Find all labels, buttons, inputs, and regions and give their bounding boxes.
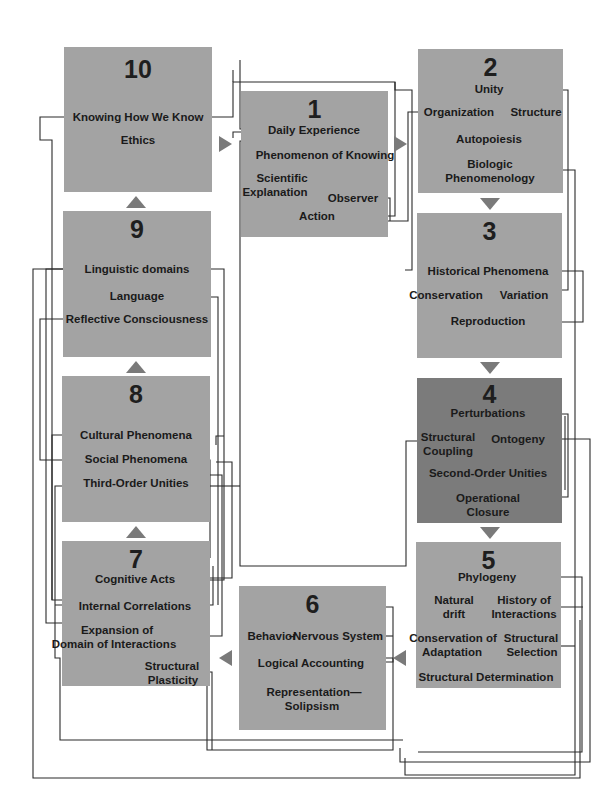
concept-organization: Organization — [424, 106, 494, 119]
concept-ontogeny: Ontogeny — [491, 433, 545, 446]
concept-language: Language — [110, 290, 164, 303]
concept-ethics: Ethics — [121, 134, 156, 147]
concept-structural-determination: Structural Determination — [419, 671, 554, 684]
arrow-down-4-to-5 — [480, 527, 500, 539]
concept-structure: Structure — [510, 106, 561, 119]
concept-perturbations: Perturbations — [451, 407, 526, 420]
concept-structural-plasticity-1: Structural — [145, 660, 199, 673]
arrow-down-2-to-3 — [480, 198, 500, 210]
box-2-number: 2 — [418, 53, 563, 82]
concept-phenomenon-of-knowing: Phenomenon of Knowing — [256, 149, 395, 162]
box-4-number: 4 — [417, 380, 562, 409]
concept-coupling: Coupling — [423, 445, 473, 458]
arrow-up-8-to-9 — [126, 361, 146, 373]
concept-explanation: Explanation — [242, 186, 307, 199]
concept-internal-correlations: Internal Correlations — [79, 600, 191, 613]
arrow-up-9-to-10 — [126, 196, 146, 208]
concept-linguistic-domains: Linguistic domains — [85, 263, 190, 276]
concept-conservation-of: Conservation of — [409, 632, 497, 645]
concept-expansion-of: Expansion of — [81, 624, 153, 637]
concept-structural: Structural — [421, 431, 475, 444]
concept-variation: Variation — [500, 289, 549, 302]
box-9: 9 — [63, 211, 211, 357]
arrow-right-10-to-1 — [219, 136, 232, 152]
box-6-number: 6 — [239, 590, 386, 619]
arrow-left-5-to-6 — [393, 650, 406, 666]
concept-reflective-consciousness: Reflective Consciousness — [66, 313, 209, 326]
concept-daily-experience: Daily Experience — [268, 124, 360, 137]
arrow-right-1-to-2 — [394, 136, 407, 152]
concept-drift: drift — [443, 608, 465, 621]
concept-historical-phenomena: Historical Phenomena — [428, 265, 549, 278]
concept-second-order-unities: Second-Order Unities — [429, 467, 547, 480]
concept-reproduction: Reproduction — [451, 315, 526, 328]
box-1-number: 1 — [241, 95, 388, 124]
concept-operational: Operational — [456, 492, 520, 505]
concept-logical-accounting: Logical Accounting — [258, 657, 364, 670]
box-3: 3 — [417, 213, 562, 358]
box-3-number: 3 — [417, 217, 562, 246]
concept-nervous-system: Nervous System — [293, 630, 383, 643]
box-8-number: 8 — [62, 380, 210, 409]
concept-phenomenology: Phenomenology — [445, 172, 534, 185]
concept-knowing-how-we-know: Knowing How We Know — [73, 111, 204, 124]
concept-representation: Representation— — [266, 686, 361, 699]
arrow-left-6-to-7 — [219, 650, 232, 666]
concept-observer: Observer — [328, 192, 379, 205]
concept-cultural-phenomena: Cultural Phenomena — [80, 429, 192, 442]
arrow-up-7-to-8 — [126, 526, 146, 538]
concept-solipsism: Solipsism — [285, 700, 339, 713]
concept-natural: Natural — [434, 594, 474, 607]
concept-conservation: Conservation — [409, 289, 483, 302]
concept-structural-plasticity-2: Plasticity — [148, 674, 199, 687]
concept-action: Action — [299, 210, 335, 223]
concept-phylogeny: Phylogeny — [458, 571, 516, 584]
concept-autopoiesis: Autopoiesis — [456, 133, 522, 146]
box-10-number: 10 — [64, 55, 212, 84]
concept-structural-5: Structural — [504, 632, 558, 645]
concept-social-phenomena: Social Phenomena — [85, 453, 187, 466]
box-8: 8 — [62, 376, 210, 522]
concept-adaptation: Adaptation — [422, 646, 482, 659]
concept-scientific: Scientific — [256, 172, 307, 185]
concept-interactions: Interactions — [491, 608, 556, 621]
concept-domain-of-interactions: Domain of Interactions — [52, 638, 177, 651]
box-9-number: 9 — [63, 215, 211, 244]
arrow-down-3-to-4 — [480, 362, 500, 374]
concept-closure: Closure — [467, 506, 510, 519]
concept-unity: Unity — [475, 83, 504, 96]
concept-biologic: Biologic — [467, 158, 512, 171]
box-7-number: 7 — [62, 545, 210, 574]
concept-third-order-unities: Third-Order Unities — [83, 477, 188, 490]
concept-selection: Selection — [506, 646, 557, 659]
concept-history-of: History of — [497, 594, 551, 607]
concept-cognitive-acts: Cognitive Acts — [95, 573, 175, 586]
